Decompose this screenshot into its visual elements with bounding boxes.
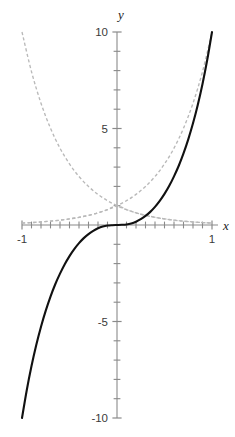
x-tick-label-1: 1 [209,233,215,245]
plot-canvas: 10 5 -5 -10 -1 1 x y [0,0,235,437]
y-tick-label-minus-10: -10 [91,412,108,424]
y-tick-label-5: 5 [102,123,108,135]
y-tick-label-10: 10 [95,26,108,38]
plot-figure: 10 5 -5 -10 -1 1 x y [0,0,235,437]
x-axis-label: x [222,218,229,233]
x-tick-label-minus-1: -1 [17,233,27,245]
y-axis-label: y [116,7,124,22]
y-tick-label-minus-5: -5 [98,316,108,328]
